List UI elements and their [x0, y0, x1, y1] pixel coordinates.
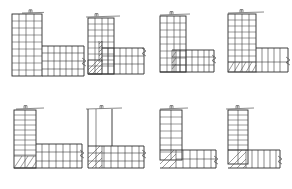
fig1-anchor-hook-icon: [29, 10, 32, 13]
fig4-break-symbol-icon: [286, 57, 290, 65]
figure-1[interactable]: [12, 10, 86, 76]
reinforcement-detail-canvas: [0, 0, 292, 189]
fig3-anchor-hook-icon: [170, 12, 173, 15]
fig4-top-rail: [228, 12, 264, 13]
fig6-column-longitudinal-bars: [88, 109, 112, 168]
fig6-beam-stirrups: [104, 146, 139, 168]
figure-4[interactable]: [228, 10, 290, 72]
fig1-top-rail: [22, 12, 44, 13]
fig3-beam-stirrups: [180, 50, 209, 72]
fig4-beam-stirrups: [262, 48, 280, 72]
fig3-column-stirrups: [160, 23, 186, 65]
drawing-sheet: [0, 0, 292, 189]
fig7-corner-hatch: [160, 150, 176, 168]
fig2-beam-stirrups: [108, 48, 138, 74]
fig1-column-stirrups: [12, 21, 42, 70]
fig5-beam-stirrups: [42, 144, 77, 168]
fig2-anchor-hook-icon: [95, 14, 98, 17]
fig8-corner-hatch: [228, 150, 246, 168]
figure-3[interactable]: [160, 12, 216, 72]
fig1-column-verticals: [19, 14, 34, 76]
fig8-break-symbol-icon: [278, 156, 282, 164]
fig1-break-symbol-icon: [82, 58, 86, 66]
fig4-anchor-hook-icon: [240, 10, 243, 13]
fig2-column-verticals: [95, 18, 108, 74]
fig8-anchor-hook-icon: [236, 106, 239, 109]
fig2-beam-outline: [88, 48, 144, 74]
figure-2[interactable]: [86, 14, 146, 74]
fig7-anchor-hook-icon: [170, 106, 173, 109]
fig5-anchor-hook-icon: [24, 106, 27, 109]
fig2-column-hatch-strip: [99, 41, 102, 62]
fig8-beam-stirrups: [252, 150, 276, 168]
fig5-beam-bars: [36, 152, 82, 161]
fig3-break-symbol-icon: [212, 55, 216, 63]
fig5-top-rail: [16, 108, 44, 109]
fig7-break-symbol-icon: [214, 156, 218, 164]
fig4-beam-outline: [256, 48, 288, 72]
fig6-anchor-hook-icon: [100, 106, 103, 109]
fig1-column-outline: [12, 14, 42, 76]
fig2-top-rail: [86, 16, 120, 17]
fig6-top-rail: [86, 108, 122, 109]
fig3-beam-outline: [160, 50, 214, 72]
figure-7[interactable]: [160, 106, 218, 168]
figure-5[interactable]: [14, 106, 84, 168]
fig7-top-rail: [160, 108, 188, 109]
fig5-break-symbol-icon: [80, 150, 84, 158]
fig6-beam-bars: [88, 153, 144, 161]
fig4-column-verticals: [235, 14, 249, 72]
fig6-joint-hatch: [88, 146, 102, 168]
fig3-top-rail: [160, 14, 190, 15]
fig8-top-rail: [226, 108, 254, 109]
fig2-break-symbol-icon: [142, 48, 146, 56]
figure-8[interactable]: [226, 106, 282, 168]
fig8-beam-outline: [228, 150, 280, 168]
figure-6[interactable]: [86, 106, 146, 168]
fig6-break-symbol-icon: [142, 150, 146, 158]
